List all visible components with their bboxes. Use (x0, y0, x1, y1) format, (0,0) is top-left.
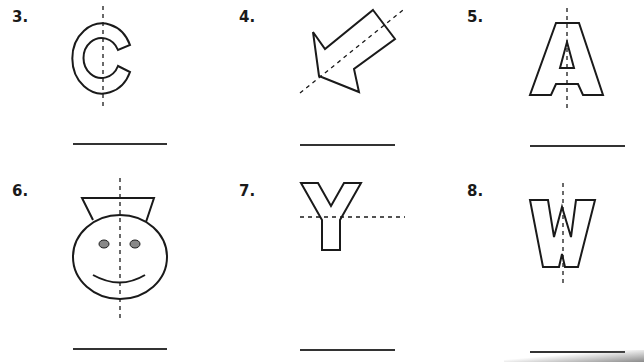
answer-line-4[interactable] (300, 144, 395, 146)
letter-w-figure (430, 170, 644, 362)
answer-line-3[interactable] (73, 143, 167, 145)
smile (93, 275, 145, 283)
letter-a-figure (430, 0, 644, 180)
answer-line-7[interactable] (300, 349, 395, 351)
hat-icon (82, 198, 154, 222)
right-eye (130, 240, 140, 248)
letter-y-figure (220, 170, 440, 362)
answer-line-5[interactable] (530, 145, 625, 147)
left-eye (99, 240, 109, 248)
answer-line-6[interactable] (73, 348, 167, 350)
page-curl-shadow (504, 350, 644, 362)
face-figure (0, 170, 220, 362)
letter-c-figure (0, 0, 220, 180)
arrow-figure (220, 0, 440, 180)
